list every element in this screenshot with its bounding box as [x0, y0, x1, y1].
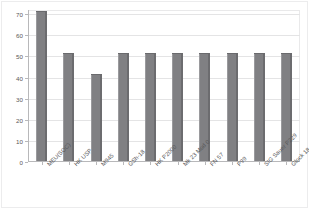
bar-right-shade [290, 53, 292, 161]
x-axis-labels: MEU(SOC)HK USPM945GSh-18HK P2000Mk 23 Mo… [28, 163, 300, 209]
bar-top-edge [145, 53, 156, 54]
bar-body [118, 53, 129, 161]
bar-top-edge [199, 53, 210, 54]
bar-body [254, 53, 265, 161]
bar-chart-figure: 010203040506070 MEU(SOC)HK USPM945GSh-18… [0, 0, 309, 209]
x-tick-label: HK USP [73, 163, 77, 167]
x-tick-label: HK P2000 [154, 163, 158, 167]
bar-top-edge [118, 53, 129, 54]
bar-top-edge [172, 53, 183, 54]
y-tick-label: 20 [16, 116, 23, 123]
bar-top-edge [227, 53, 238, 54]
bar-right-shade [45, 11, 47, 161]
y-axis-line [28, 10, 29, 162]
bar [227, 53, 238, 161]
y-tick-mark [25, 35, 28, 36]
x-tick-label: SIG Sauer P229 [263, 163, 267, 167]
bar-top-edge [254, 53, 265, 54]
y-tick-label: 40 [16, 74, 23, 81]
plot-area: 010203040506070 [28, 10, 300, 162]
bar-top-edge [91, 74, 102, 75]
bar-left-highlight [36, 11, 37, 161]
y-tick-label: 70 [16, 11, 23, 18]
y-tick-label: 50 [16, 53, 23, 60]
bar-right-shade [127, 53, 129, 161]
y-tick-mark [25, 14, 28, 15]
x-tick-label: M945 [100, 163, 104, 167]
y-tick-mark [25, 120, 28, 121]
x-tick-label: Mk 23 Mod 0 [182, 163, 186, 167]
bar [118, 53, 129, 161]
y-tick-mark [25, 56, 28, 57]
bar-left-highlight [145, 53, 146, 161]
y-tick-label: 10 [16, 137, 23, 144]
y-tick-mark [25, 78, 28, 79]
bar-right-shade [181, 53, 183, 161]
bar [254, 53, 265, 161]
bar-right-shade [72, 53, 74, 161]
y-tick-label: 60 [16, 32, 23, 39]
bar-top-edge [281, 53, 292, 54]
x-tick-label: GSh-18 [127, 163, 131, 167]
bar-right-shade [154, 53, 156, 161]
bar-left-highlight [254, 53, 255, 161]
x-tick-label: FN 57 [209, 163, 213, 167]
bar-body [227, 53, 238, 161]
bar-body [36, 11, 47, 161]
bar-top-edge [63, 53, 74, 54]
y-tick-mark [25, 99, 28, 100]
gridline [28, 35, 300, 36]
x-tick-label: MEU(SOC) [46, 163, 50, 167]
bar-right-shade [236, 53, 238, 161]
bar [91, 74, 102, 161]
y-tick-label: 0 [19, 159, 23, 166]
bar-body [91, 74, 102, 161]
bar [36, 11, 47, 161]
bar-right-shade [263, 53, 265, 161]
bar [145, 53, 156, 161]
bar-left-highlight [118, 53, 119, 161]
bar-right-shade [100, 74, 102, 161]
x-tick-label: P99 [236, 163, 240, 167]
bar-left-highlight [227, 53, 228, 161]
bar-left-highlight [91, 74, 92, 161]
gridline [28, 14, 300, 15]
bar-top-edge [36, 11, 47, 12]
bar-body [145, 53, 156, 161]
y-tick-mark [25, 141, 28, 142]
y-tick-label: 30 [16, 95, 23, 102]
x-tick-label: Glock 18 [290, 163, 294, 167]
